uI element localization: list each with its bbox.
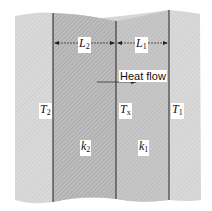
label-L2: L2 bbox=[78, 37, 91, 53]
label-L1: L1 bbox=[135, 37, 148, 53]
label-T2: T2 bbox=[39, 103, 52, 119]
heat-flow-label: Heat flow bbox=[119, 70, 167, 82]
label-Tx: Tx bbox=[119, 103, 132, 119]
label-T1: T1 bbox=[171, 103, 184, 119]
label-k1: k1 bbox=[138, 140, 149, 156]
label-k2: k2 bbox=[80, 140, 91, 156]
